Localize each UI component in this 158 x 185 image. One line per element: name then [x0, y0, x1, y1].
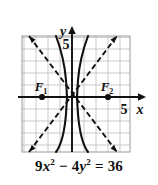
- x-axis-label: x: [136, 102, 144, 117]
- figure-caption: 9x2 − 4y2 = 36: [0, 158, 158, 175]
- focus-left-letter: F: [34, 79, 44, 94]
- y-axis-tick-label: 5: [63, 37, 70, 52]
- caption-rhs: 36: [108, 158, 123, 174]
- y-axis-arrow: [68, 26, 76, 34]
- x-axis-arrow: [138, 93, 146, 101]
- hyperbola-figure: y x 5 5 F1 F2 9x2 − 4y2 = 36: [0, 0, 158, 185]
- caption-equals: =: [95, 158, 104, 174]
- caption-minus-sign: −: [59, 158, 68, 174]
- focus-right-subscript: 2: [109, 87, 113, 96]
- x-axis-tick-label: 5: [121, 102, 128, 117]
- caption-coef-a: 9: [35, 158, 43, 174]
- grid-lines: [22, 36, 130, 152]
- focus-right-letter: F: [100, 79, 110, 94]
- focus-left-subscript: 1: [43, 87, 47, 96]
